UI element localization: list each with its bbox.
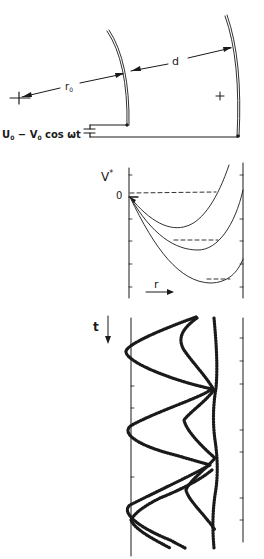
electrode-schematic (10, 15, 240, 137)
voltage-label: U0 − V0 cos ωt (2, 129, 81, 141)
inner-electrode (107, 30, 129, 125)
capacitor-leads (90, 124, 239, 137)
potential-plot (129, 163, 243, 298)
plus-icon (216, 92, 224, 100)
t-arrow (105, 316, 111, 344)
trajectory-ylabel: t (93, 320, 99, 334)
potential-xlabel: r (154, 278, 159, 291)
potential-ticks (129, 175, 243, 287)
gap-label: d (172, 55, 179, 68)
figure: r0 d U0 − V0 cos ωt V* 0 r t (0, 0, 264, 559)
potential-ylabel: V* (101, 169, 113, 184)
potential-zero-label: 0 (116, 190, 122, 201)
ion-trajectories (126, 317, 217, 548)
radius-arrow (22, 73, 124, 97)
outer-electrode (225, 15, 240, 137)
radius-label: r0 (65, 81, 73, 93)
energy-levels (130, 192, 230, 279)
gap-arrow (131, 47, 232, 71)
capacitor-icon (84, 125, 95, 137)
r-arrow (146, 289, 174, 295)
center-cross-icon (10, 92, 30, 104)
potential-curves (130, 165, 243, 283)
trajectory-plot (105, 316, 243, 556)
